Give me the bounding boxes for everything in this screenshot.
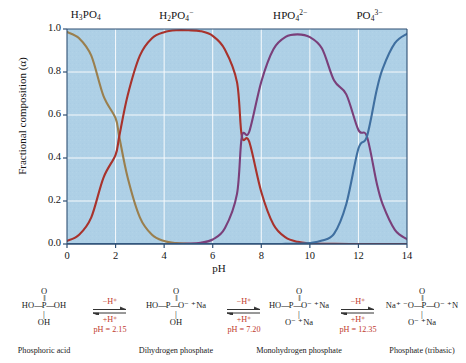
y-tick-0.4: 0.4	[27, 151, 61, 162]
species-label-hpo4-2-: HPO42−	[273, 8, 307, 23]
bottom-group-dihydrogen-phosphate: OH	[124, 318, 228, 327]
left-group-monohydrogen-phosphate: HO	[269, 300, 281, 310]
y-tick-1.0: 1.0	[27, 22, 61, 33]
x-tick-14: 14	[393, 250, 421, 261]
equilibrium-arrows-step-1	[90, 306, 130, 315]
reverse-label-step-2: +H⁺	[222, 315, 266, 324]
left-group-dihydrogen-phosphate: HO	[146, 300, 158, 310]
x-tick-2: 2	[102, 250, 130, 261]
bottom-counterion-phosphate-tribasic: ⁺Na	[421, 317, 436, 327]
plot-background	[67, 29, 407, 244]
species-label-h3po4: H3PO4	[71, 8, 101, 22]
x-tick-0: 0	[53, 250, 81, 261]
species-name-dihydrogen-phosphate: Dihydrogen phosphate	[110, 346, 242, 355]
x-tick-10: 10	[296, 250, 324, 261]
species-label-h2po4-: H2PO4−	[159, 8, 193, 23]
forward-label-step-2: −H⁺	[222, 297, 266, 306]
species-label-po4-3-: PO43−	[356, 8, 382, 23]
equilibrium-step-2: −H⁺+H⁺pH = 7.20	[222, 297, 266, 334]
left-group-phosphoric-acid: HO	[22, 300, 34, 310]
structure-phosphoric-acid: O‖HO—P—OH|OH	[6, 287, 82, 327]
y-tick-0.6: 0.6	[27, 108, 61, 119]
species-name-phosphoric-acid: Phosphoric acid	[0, 346, 96, 355]
y-tick-0.0: 0.0	[27, 237, 61, 248]
y-tick-0.2: 0.2	[27, 194, 61, 205]
species-name-phosphate-tribasic: Phosphate (tribasic)	[364, 346, 466, 355]
right-counterion-monohydrogen-phosphate: ⁺Na	[314, 300, 329, 310]
bottom-group-phosphoric-acid: OH	[6, 318, 82, 327]
bottom-group-phosphate-tribasic: O⁻ ⁺Na	[378, 318, 466, 327]
forward-label-step-1: −H⁺	[88, 297, 132, 306]
reverse-label-step-3: +H⁺	[336, 315, 380, 324]
species-name-monohydrogen-phosphate: Monohydrogen phosphate	[233, 346, 365, 355]
x-tick-12: 12	[344, 250, 372, 261]
ph-label-step-2: pH = 7.20	[222, 325, 266, 334]
structure-dihydrogen-phosphate: O‖HO—P—O⁻ ⁺Na|OH	[124, 287, 228, 327]
right-group-monohydrogen-phosphate: O⁻	[301, 300, 312, 310]
protonation-scheme: O‖HO—P—OH|OHPhosphoric acidO‖HO—P—O⁻ ⁺Na…	[0, 283, 466, 363]
right-group-dihydrogen-phosphate: O⁻	[178, 300, 189, 310]
fractional-composition-chart: H3PO4H2PO4−HPO42−PO43− 0.00.20.40.60.81.…	[0, 0, 466, 280]
right-counterion-phosphate-tribasic: ⁺N	[447, 300, 458, 310]
right-group-phosphoric-acid: OH	[54, 300, 66, 310]
x-tick-6: 6	[199, 250, 227, 261]
x-axis-title: pH	[0, 262, 466, 274]
ph-label-step-3: pH = 12.35	[336, 325, 380, 334]
equilibrium-step-1: −H⁺+H⁺pH = 2.15	[88, 297, 132, 334]
equilibrium-step-3: −H⁺+H⁺pH = 12.35	[336, 297, 380, 334]
ph-label-step-1: pH = 2.15	[88, 325, 132, 334]
reverse-label-step-1: +H⁺	[88, 315, 132, 324]
right-group-phosphate-tribasic: O⁻	[434, 300, 445, 310]
forward-label-step-3: −H⁺	[336, 297, 380, 306]
y-axis-title: Fractional composition (α)	[16, 31, 28, 201]
y-tick-marks	[63, 29, 67, 244]
left-group-phosphate-tribasic: Na⁺ ⁻O	[386, 300, 414, 310]
right-counterion-dihydrogen-phosphate: ⁺Na	[191, 300, 206, 310]
plot-canvas	[0, 0, 466, 280]
structure-phosphate-tribasic: O‖Na⁺ ⁻O—P—O⁻ ⁺N|O⁻ ⁺Na	[378, 287, 466, 327]
equilibrium-arrows-step-2	[224, 306, 264, 315]
equilibrium-arrows-step-3	[338, 306, 378, 315]
phosphoric-acid-speciation-figure: H3PO4H2PO4−HPO42−PO43− 0.00.20.40.60.81.…	[0, 0, 466, 363]
y-tick-0.8: 0.8	[27, 65, 61, 76]
x-tick-8: 8	[247, 250, 275, 261]
x-tick-4: 4	[150, 250, 178, 261]
bottom-counterion-monohydrogen-phosphate: ⁺Na	[298, 317, 313, 327]
